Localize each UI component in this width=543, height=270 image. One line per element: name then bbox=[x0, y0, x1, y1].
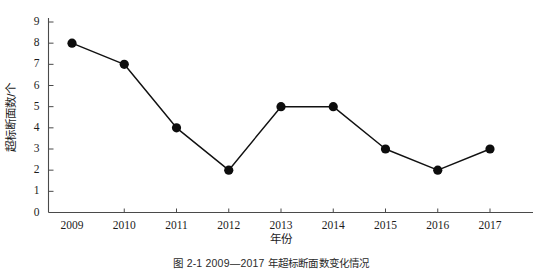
x-axis-label: 年份 bbox=[270, 232, 293, 245]
y-tick-label: 1 bbox=[34, 184, 40, 196]
y-tick-label: 7 bbox=[34, 57, 40, 69]
y-tick-label: 5 bbox=[34, 100, 40, 112]
y-tick-label: 0 bbox=[34, 206, 40, 218]
x-tick-label: 2017 bbox=[479, 219, 502, 231]
data-point-marker bbox=[433, 166, 442, 175]
y-axis-tick-labels: 0123456789 bbox=[34, 15, 40, 218]
y-tick-label: 2 bbox=[34, 163, 40, 175]
x-tick-label: 2012 bbox=[217, 219, 240, 231]
data-point-marker bbox=[485, 144, 494, 153]
x-axis-tick-marks bbox=[124, 209, 490, 213]
y-tick-label: 9 bbox=[34, 15, 40, 27]
y-axis-tick-marks bbox=[49, 22, 54, 191]
y-tick-label: 3 bbox=[34, 142, 40, 154]
data-point-marker bbox=[67, 39, 76, 48]
x-tick-label: 2010 bbox=[113, 219, 136, 231]
data-point-markers bbox=[67, 39, 494, 175]
x-tick-label: 2015 bbox=[374, 219, 397, 231]
x-tick-label: 2014 bbox=[322, 219, 345, 231]
x-tick-label: 2016 bbox=[426, 219, 449, 231]
y-tick-label: 6 bbox=[34, 79, 40, 91]
y-tick-label: 8 bbox=[34, 36, 40, 48]
data-point-marker bbox=[329, 102, 338, 111]
y-tick-label: 4 bbox=[34, 121, 40, 133]
x-axis-tick-labels: 200920102011201220132014201520162017 bbox=[61, 219, 502, 231]
data-point-marker bbox=[172, 123, 181, 132]
data-point-marker bbox=[224, 166, 233, 175]
figure-caption: 图 2-1 2009—2017 年超标断面数变化情况 bbox=[0, 255, 543, 270]
x-tick-label: 2011 bbox=[165, 219, 188, 231]
data-point-marker bbox=[381, 144, 390, 153]
y-axis-label: 超标断面数/个 bbox=[4, 82, 17, 152]
x-tick-label: 2009 bbox=[61, 219, 84, 231]
data-point-marker bbox=[276, 102, 285, 111]
data-point-marker bbox=[120, 60, 129, 69]
x-tick-label: 2013 bbox=[270, 219, 293, 231]
